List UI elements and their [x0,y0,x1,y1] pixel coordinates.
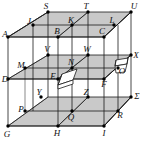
vertex-dot-V [46,53,49,56]
vertex-dot-Q [70,109,73,112]
vertex-dot-J [31,23,34,26]
vertex-dot-Sigma [129,95,132,98]
vertex-dot-P [23,109,26,112]
vertex-dot-G [6,124,9,127]
vertex-dot-A [6,35,9,38]
vertex-dot-B [56,35,59,38]
vertex-dot-F [102,77,105,80]
vertex-dot-C [102,35,105,38]
vertex-dot-O [116,66,119,69]
vertex-dot-L [112,23,115,26]
vertex-dot-T [86,10,89,13]
vertex-dot-H [56,124,59,127]
vertex-dot-W [86,53,89,56]
vertex-dot-K [70,23,73,26]
vertex-dot-N [70,66,73,69]
box-insert-O [115,58,128,73]
cube-lattice-svg [0,0,150,146]
vertex-dot-D [6,77,9,80]
vertex-dot-E [56,77,59,80]
vertex-dot-I [102,124,105,127]
vertex-dot-U [129,10,132,13]
vertex-dot-M [23,66,26,69]
vertex-dot-Z [86,95,89,98]
vertex-dot-R [116,109,119,112]
vertex-dot-S [46,10,49,13]
geometry-diagram-figure: AJSBKTCLUDMVENWFOXGPYHQZIRΣ [0,0,150,146]
vertex-dot-X [129,53,132,56]
vertex-dot-Y [39,95,42,98]
